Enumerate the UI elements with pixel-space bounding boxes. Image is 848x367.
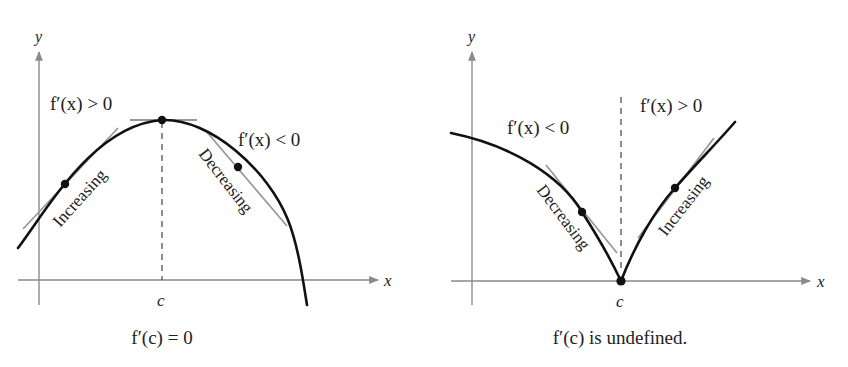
left-condition-positive: f′(x) > 0 [50, 93, 112, 115]
left-point-increasing [61, 180, 69, 188]
right-y-axis-label: y [466, 28, 476, 46]
right-condition-negative: f′(x) < 0 [507, 117, 569, 139]
right-point-increasing [671, 184, 679, 192]
right-graph: y x c f′(x) < 0 f′(x) > 0 Decreasing Inc… [451, 28, 825, 349]
right-curve-left [451, 133, 621, 281]
left-x-axis-label: x [383, 271, 392, 290]
right-point-cusp [616, 276, 625, 285]
left-point-decreasing [234, 163, 242, 171]
right-point-decreasing [578, 208, 586, 216]
left-y-axis-label: y [33, 28, 43, 46]
left-increasing-label: Increasing [49, 165, 111, 231]
right-caption: f′(c) is undefined. [553, 327, 687, 349]
figure: y x c f′(x) > 0 f′(x) < 0 Increasing Dec… [0, 0, 848, 367]
right-x-axis-label: x [816, 272, 825, 291]
left-tick-c: c [157, 291, 165, 310]
left-graph: y x c f′(x) > 0 f′(x) < 0 Increasing Dec… [18, 28, 392, 349]
left-caption: f′(c) = 0 [131, 327, 192, 349]
right-condition-positive: f′(x) > 0 [640, 95, 702, 117]
left-point-peak [158, 116, 166, 124]
right-tick-c: c [616, 292, 624, 311]
left-condition-negative: f′(x) < 0 [238, 129, 300, 151]
